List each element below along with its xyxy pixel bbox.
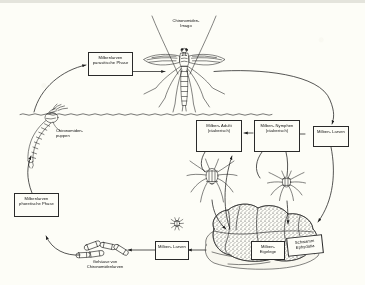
label-chironomidenpuppen: Chironomiden- puppen [56,128,104,139]
box-milben-nymphen[interactable]: Milben- Nymphen (räuberisch) [254,120,300,152]
box-milben-larven-right[interactable]: Milben- Larven [313,126,349,147]
box-milben-adulti[interactable]: Milben- Adulti (räuberisch) [196,120,242,152]
box-milben-eigelege[interactable]: Milben- Eigelege [251,241,285,260]
box-milbenlarven-parasitische-phase[interactable]: Milbenlarven parasitische Phase [88,52,133,76]
label-gehaeuse-von-chironomidenlarven: Gehäuse von Chironomidenlarven [62,259,148,270]
box-milben-larven-bottom[interactable]: Milben- Larven [155,241,189,260]
water-surface-line [20,114,272,115]
box-schwamm-ephydatia[interactable]: Schwamm Ephydatia [286,234,324,257]
figure-canvas: Chironomiden- Imago Milbenlarven parasit… [0,0,365,285]
mite-larva-small-drawing [171,218,184,230]
larval-cases-drawing [76,240,129,258]
midge-drawing [144,16,226,112]
box-milbenlarven-phoretische-phase[interactable]: Milbenlarven phoretische Phase [14,193,59,217]
label-chironomiden-imago: Chironomiden- Imago [160,18,212,29]
mite-nymph-drawing [268,171,306,201]
